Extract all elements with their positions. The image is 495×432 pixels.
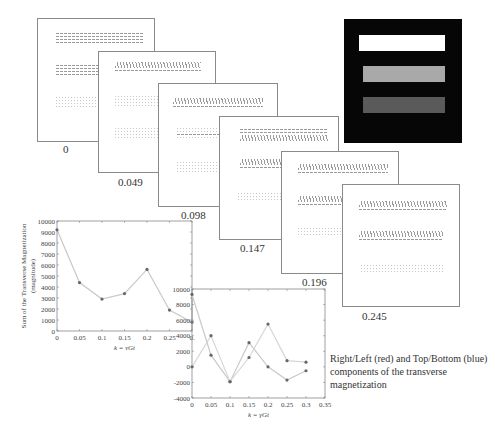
data-point <box>304 361 307 364</box>
data-point <box>190 293 193 296</box>
panel-label-0.147: 0.147 <box>240 242 265 254</box>
data-point <box>55 228 58 231</box>
x-tick-label: 0.1 <box>98 334 107 342</box>
data-point <box>304 369 307 372</box>
y-tick-label: 1000 <box>41 317 56 325</box>
data-point <box>285 359 288 362</box>
y-tick-label: 8000 <box>176 301 191 309</box>
x-tick-label: 0.15 <box>243 401 256 409</box>
x-tick-label: 0.25 <box>281 401 294 409</box>
data-point <box>247 356 250 359</box>
plot-frame <box>192 289 325 398</box>
panel-label-0.245: 0.245 <box>362 310 387 322</box>
series-line <box>192 324 306 382</box>
x-tick-label: 0.1 <box>226 401 235 409</box>
y-tick-label: 2000 <box>176 348 191 356</box>
x-tick-label: 0.15 <box>118 334 131 342</box>
data-point <box>247 341 250 344</box>
components-chart: -4000-2000020004000600080001000000.050.1… <box>150 280 340 420</box>
phantom-bar-dark-gray <box>363 97 445 113</box>
phantom-bar-white <box>359 35 445 51</box>
data-point <box>266 322 269 325</box>
x-axis-label: k = γGt <box>248 411 270 419</box>
y-tick-label: 6000 <box>176 317 191 325</box>
y-tick-label: 3000 <box>41 295 56 303</box>
y-tick-label: 4000 <box>41 284 56 292</box>
x-tick-label: 0 <box>55 334 59 342</box>
phantom-bar-light-gray <box>363 66 445 82</box>
x-tick-label: 0.2 <box>264 401 273 409</box>
data-point <box>209 354 212 357</box>
data-point <box>100 298 103 301</box>
y-tick-label: -4000 <box>174 395 191 403</box>
y-tick-label: 7000 <box>41 251 56 259</box>
x-tick-label: 0.05 <box>73 334 86 342</box>
data-point <box>228 380 231 383</box>
y-tick-label: -2000 <box>174 379 191 387</box>
y-tick-label: 4000 <box>176 332 191 340</box>
y-axis-label-units: (magnitude) <box>29 258 37 293</box>
data-point <box>78 281 81 284</box>
y-tick-label: 0 <box>187 363 191 371</box>
data-point <box>145 268 148 271</box>
panel-label-0: 0 <box>63 143 69 155</box>
panel-label-0.049: 0.049 <box>118 176 143 188</box>
y-tick-label: 2000 <box>41 306 56 314</box>
y-tick-label: 10000 <box>173 286 191 294</box>
x-tick-label: 0.35 <box>319 401 332 409</box>
data-point <box>285 378 288 381</box>
data-point <box>266 365 269 368</box>
data-point <box>209 334 212 337</box>
y-tick-label: 10000 <box>38 218 56 226</box>
x-axis-label: k = γGt <box>114 344 136 350</box>
y-tick-label: 6000 <box>41 262 56 270</box>
phantom-image <box>344 19 462 143</box>
y-tick-label: 8000 <box>41 240 56 248</box>
x-tick-label: 0.3 <box>302 401 311 409</box>
data-point <box>190 365 193 368</box>
caption: Right/Left (red) and Top/Bottom (blue) c… <box>330 352 490 391</box>
x-tick-label: 0 <box>190 401 194 409</box>
y-tick-label: 9000 <box>41 229 56 237</box>
data-point <box>123 292 126 295</box>
vector-panel-0.245 <box>342 184 460 307</box>
y-axis-label: Sum of the Transverse Magnetization <box>20 223 28 328</box>
y-tick-label: 5000 <box>41 273 56 281</box>
x-tick-label: 0.05 <box>205 401 218 409</box>
